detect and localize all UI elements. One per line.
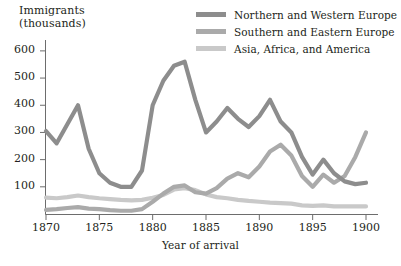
x-tick-label: 1870 — [26, 221, 66, 234]
legend-swatch-icon — [196, 29, 226, 34]
legend-item: Asia, Africa, and America — [196, 40, 397, 57]
legend-swatch-icon — [196, 12, 226, 17]
y-tick-label: 600 — [5, 43, 35, 56]
series-lines — [46, 62, 366, 211]
x-axis-title: Year of arrival — [0, 239, 401, 251]
legend-label: Asia, Africa, and America — [234, 43, 370, 55]
y-axis-title: Immigrants (thousands) — [19, 4, 86, 30]
y-tick-label: 200 — [5, 152, 35, 165]
x-tick-label: 1885 — [186, 221, 226, 234]
y-tick-label: 500 — [5, 70, 35, 83]
x-tick-label: 1880 — [133, 221, 173, 234]
y-tick-label: 100 — [5, 179, 35, 192]
legend-item: Southern and Eastern Europe — [196, 23, 397, 40]
x-tick-label: 1875 — [79, 221, 119, 234]
legend-label: Northern and Western Europe — [234, 9, 397, 21]
x-tick-label: 1895 — [293, 221, 333, 234]
legend-swatch-icon — [196, 46, 226, 51]
x-tick-label: 1890 — [239, 221, 279, 234]
legend-label: Southern and Eastern Europe — [234, 26, 395, 38]
immigration-line-chart: Immigrants (thousands) Northern and West… — [0, 0, 401, 266]
x-tick-label: 1900 — [346, 221, 386, 234]
chart-legend: Northern and Western Europe Southern and… — [196, 6, 397, 57]
legend-item: Northern and Western Europe — [196, 6, 397, 23]
y-tick-label: 300 — [5, 124, 35, 137]
y-tick-label: 400 — [5, 97, 35, 110]
